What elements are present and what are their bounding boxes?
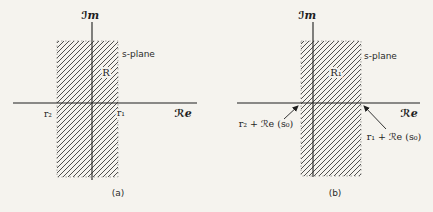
- right-boundary-arrow-b: [364, 106, 386, 129]
- right-boundary-label-b: r₁ + ℛe (s₀): [367, 131, 422, 142]
- region-label-b: R₁: [330, 67, 342, 78]
- roc-region-b: [301, 41, 361, 176]
- re-axis-label-b: ℛe: [400, 107, 417, 120]
- diagram-a: ℐm ℛe s-plane R r₂ r₁ (a): [13, 9, 197, 198]
- diagram-b: ℐm ℛe s-plane R₁ r₂ + ℛe (s₀) r₁ + ℛe (s…: [237, 9, 421, 198]
- figure-canvas: ℐm ℛe s-plane R r₂ r₁ (a) ℐm ℛe s-plane …: [0, 0, 433, 212]
- caption-a: (a): [112, 188, 125, 198]
- s-plane-figure: ℐm ℛe s-plane R r₂ r₁ (a) ℐm ℛe s-plane …: [0, 0, 433, 212]
- im-axis-label-b: ℐm: [298, 9, 316, 22]
- caption-b: (b): [329, 188, 342, 198]
- left-boundary-label-a: r₂: [44, 109, 52, 119]
- region-label-a: R: [102, 67, 110, 78]
- roc-region-a: [57, 41, 118, 177]
- left-boundary-label-b: r₂ + ℛe (s₀): [239, 118, 294, 129]
- im-axis-label-a: ℐm: [81, 9, 99, 22]
- re-axis-label-a: ℛe: [174, 107, 191, 120]
- s-plane-label-b: s-plane: [364, 51, 397, 61]
- s-plane-label-a: s-plane: [122, 49, 155, 59]
- right-boundary-label-a: r₁: [117, 108, 125, 118]
